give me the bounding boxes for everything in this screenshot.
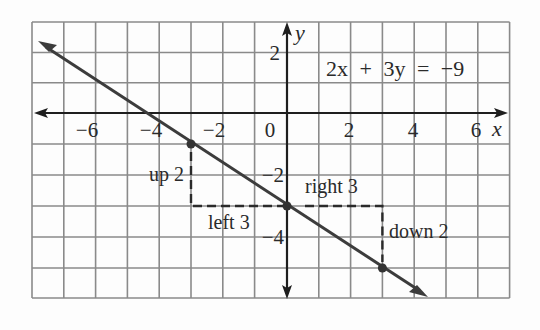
- x-tick: −6: [76, 118, 98, 142]
- point-3-neg5: [378, 264, 387, 273]
- y-tick-labels: 2 −2 −4: [262, 41, 285, 249]
- y-axis-label: y: [293, 20, 305, 45]
- annotation-right: right 3: [305, 175, 358, 198]
- graph: −6 −4 −2 0 2 4 6 2 −2 −4 y x 2x + 3y = −…: [0, 0, 540, 330]
- point-neg3-neg1: [187, 140, 196, 149]
- x-tick: 2: [344, 118, 355, 142]
- x-axis-label: x: [491, 116, 502, 141]
- y-tick: −4: [262, 225, 285, 249]
- annotation-left: left 3: [208, 211, 250, 233]
- y-tick: 2: [270, 41, 281, 65]
- x-tick: −4: [140, 118, 163, 142]
- x-tick: 6: [471, 118, 482, 142]
- y-tick: −2: [262, 163, 284, 187]
- x-tick-labels: −6 −4 −2 0 2 4 6: [76, 118, 481, 142]
- annotation-up: up 2: [149, 163, 184, 186]
- x-tick: 0: [265, 118, 276, 142]
- x-tick: 4: [408, 118, 419, 142]
- equation-label: 2x + 3y = −9: [326, 56, 464, 81]
- x-tick: −2: [203, 118, 225, 142]
- annotation-down: down 2: [389, 220, 448, 242]
- point-0-neg3: [283, 202, 292, 211]
